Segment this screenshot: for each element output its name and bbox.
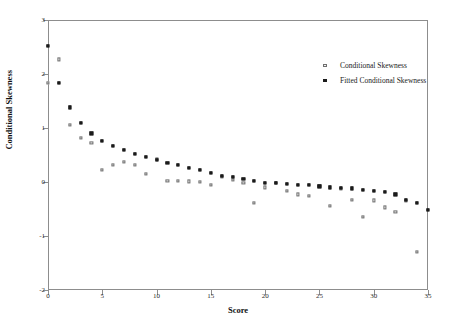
data-point-fitted-conditional-skewness <box>68 106 71 109</box>
data-point-conditional-skewness <box>90 141 93 144</box>
data-point-conditional-skewness <box>79 136 82 139</box>
data-point-conditional-skewness <box>57 58 60 61</box>
data-point-conditional-skewness <box>242 181 245 184</box>
data-point-conditional-skewness <box>46 82 49 85</box>
data-point-conditional-skewness <box>198 180 201 183</box>
data-point-conditional-skewness <box>372 199 375 202</box>
data-point-conditional-skewness <box>264 186 267 189</box>
data-point-fitted-conditional-skewness <box>209 171 212 174</box>
data-point-fitted-conditional-skewness <box>188 166 191 169</box>
data-point-fitted-conditional-skewness <box>383 190 386 193</box>
data-point-conditional-skewness <box>361 215 364 218</box>
data-point-fitted-conditional-skewness <box>329 186 332 189</box>
x-axis-tick-label: 10 <box>153 293 160 300</box>
x-axis-tick-label: 30 <box>370 293 377 300</box>
data-point-conditional-skewness <box>350 198 353 201</box>
data-point-fitted-conditional-skewness <box>405 198 408 201</box>
x-axis-tick-label: 25 <box>316 293 323 300</box>
data-point-conditional-skewness <box>329 204 332 207</box>
data-point-conditional-skewness <box>416 251 419 254</box>
data-point-fitted-conditional-skewness <box>416 201 419 204</box>
data-point-fitted-conditional-skewness <box>264 181 267 184</box>
scatter-chart-figure: -2-10123 05101520253035 Conditional Skew… <box>0 0 451 328</box>
data-point-conditional-skewness <box>209 183 212 186</box>
data-point-fitted-conditional-skewness <box>350 187 353 190</box>
data-point-conditional-skewness <box>101 168 104 171</box>
data-point-fitted-conditional-skewness <box>57 82 60 85</box>
data-point-fitted-conditional-skewness <box>166 162 169 165</box>
y-axis-tick-label: -2 <box>39 287 45 294</box>
open-square-marker-icon <box>320 64 330 67</box>
y-axis-tick-label: -1 <box>39 233 45 240</box>
data-point-fitted-conditional-skewness <box>296 183 299 186</box>
y-axis-title: Conditional Skewness <box>4 70 18 150</box>
plot-area: -2-10123 05101520253035 Conditional Skew… <box>48 20 428 290</box>
data-point-conditional-skewness <box>68 124 71 127</box>
data-point-fitted-conditional-skewness <box>426 208 429 211</box>
data-point-conditional-skewness <box>394 210 397 213</box>
data-point-fitted-conditional-skewness <box>155 158 158 161</box>
data-point-fitted-conditional-skewness <box>112 144 115 147</box>
y-axis-tick-label: 0 <box>42 179 46 186</box>
data-point-conditional-skewness <box>144 172 147 175</box>
x-axis-tick-label: 15 <box>207 293 214 300</box>
data-point-conditional-skewness <box>188 180 191 183</box>
data-point-fitted-conditional-skewness <box>133 152 136 155</box>
x-axis-tick-label: 35 <box>425 293 432 300</box>
data-point-fitted-conditional-skewness <box>253 179 256 182</box>
data-point-fitted-conditional-skewness <box>285 183 288 186</box>
legend-label-fitted-conditional-skewness: Fitted Conditional Skewness <box>340 77 426 85</box>
x-axis-title: Score <box>48 305 428 315</box>
data-point-fitted-conditional-skewness <box>340 186 343 189</box>
data-point-fitted-conditional-skewness <box>177 164 180 167</box>
data-point-fitted-conditional-skewness <box>372 189 375 192</box>
data-point-conditional-skewness <box>383 206 386 209</box>
filled-square-marker-icon <box>320 79 330 82</box>
x-axis-tick-label: 20 <box>262 293 269 300</box>
data-point-fitted-conditional-skewness <box>101 139 104 142</box>
data-point-conditional-skewness <box>177 179 180 182</box>
data-point-fitted-conditional-skewness <box>394 193 397 196</box>
legend-item-conditional-skewness: Conditional Skewness <box>320 58 426 73</box>
y-axis-tick-label: 2 <box>42 71 46 78</box>
data-point-fitted-conditional-skewness <box>231 176 234 179</box>
data-point-fitted-conditional-skewness <box>90 132 93 135</box>
data-point-conditional-skewness <box>253 201 256 204</box>
legend-item-fitted-conditional-skewness: Fitted Conditional Skewness <box>320 73 426 88</box>
chart-legend: Conditional Skewness Fitted Conditional … <box>320 58 426 88</box>
data-point-conditional-skewness <box>112 164 115 167</box>
data-point-fitted-conditional-skewness <box>122 148 125 151</box>
data-point-conditional-skewness <box>296 193 299 196</box>
data-point-conditional-skewness <box>166 179 169 182</box>
data-point-conditional-skewness <box>307 194 310 197</box>
x-axis-tick-label: 5 <box>101 293 105 300</box>
x-axis-tick-label: 0 <box>46 293 50 300</box>
legend-label-conditional-skewness: Conditional Skewness <box>340 62 407 70</box>
data-point-fitted-conditional-skewness <box>274 181 277 184</box>
data-point-conditional-skewness <box>285 190 288 193</box>
data-point-fitted-conditional-skewness <box>144 156 147 159</box>
data-point-fitted-conditional-skewness <box>361 188 364 191</box>
y-axis-tick-label: 1 <box>42 125 46 132</box>
data-point-fitted-conditional-skewness <box>318 185 321 188</box>
data-point-conditional-skewness <box>133 164 136 167</box>
data-point-fitted-conditional-skewness <box>46 44 49 47</box>
y-axis-tick-label: 3 <box>42 17 46 24</box>
data-point-fitted-conditional-skewness <box>79 122 82 125</box>
data-point-fitted-conditional-skewness <box>242 177 245 180</box>
data-point-fitted-conditional-skewness <box>307 184 310 187</box>
data-point-conditional-skewness <box>122 160 125 163</box>
data-point-fitted-conditional-skewness <box>198 169 201 172</box>
data-point-fitted-conditional-skewness <box>220 174 223 177</box>
